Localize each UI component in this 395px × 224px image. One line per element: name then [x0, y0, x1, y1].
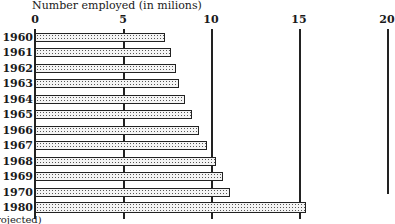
x-tick-label: 0: [31, 13, 39, 26]
gridline: [299, 29, 301, 219]
bar: [35, 202, 306, 213]
x-tick-label: 5: [119, 13, 127, 26]
bar: [35, 157, 216, 166]
year-label: 1969: [1, 169, 33, 184]
bar: [35, 126, 199, 135]
year-label: 1966: [1, 123, 33, 138]
bar: [35, 141, 207, 150]
x-tick-label: 15: [291, 13, 306, 26]
year-label: 1963: [1, 76, 33, 91]
bar: [35, 48, 171, 57]
bar: [35, 79, 179, 88]
bar: [35, 64, 176, 73]
footnote: rojected): [0, 214, 42, 224]
year-label: 1960: [1, 30, 33, 45]
year-label: 1968: [1, 154, 33, 169]
year-label: 1962: [1, 61, 33, 76]
x-tick-label: 10: [203, 13, 218, 26]
year-label: 1961: [1, 45, 33, 60]
year-label: 1965: [1, 107, 33, 122]
year-label: 1980: [1, 200, 33, 215]
bar: [35, 110, 192, 119]
chart-title: Number employed (in milions): [32, 0, 202, 12]
bar: [35, 95, 185, 104]
x-tick-label: 20: [379, 13, 394, 26]
bar: [35, 188, 230, 197]
year-label: 1967: [1, 138, 33, 153]
bar: [35, 33, 165, 42]
year-label: 1970: [1, 185, 33, 200]
bar: [35, 172, 223, 181]
year-label: 1964: [1, 92, 33, 107]
gridline: [387, 29, 389, 194]
